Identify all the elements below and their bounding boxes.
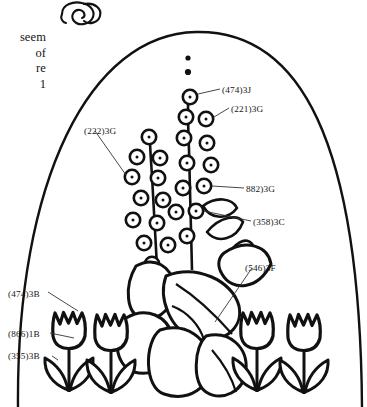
- bud-222-3G-top: [142, 130, 156, 144]
- bud-r-7: [180, 229, 194, 243]
- callout-222-3G: (222)3G: [84, 126, 116, 136]
- bud-r-4: [204, 158, 218, 172]
- leader-474-3B: [48, 292, 78, 311]
- pattern-page: seem of re 1 (474)3J (221)3G (222)3G 882…: [0, 0, 367, 407]
- flower-spike-right: [169, 55, 218, 270]
- bud-474-3J: [183, 90, 197, 104]
- bud-l-6: [126, 213, 140, 227]
- tulip-4: [280, 315, 328, 395]
- bud-r-5: [176, 181, 190, 195]
- callout-355-3B: (355)3B: [8, 351, 40, 361]
- callout-474-3B: (474)3B: [8, 289, 40, 299]
- bud-l-2: [153, 151, 167, 165]
- bud-dot-top-2: [185, 69, 191, 75]
- callout-866-1B: (866)1B: [8, 329, 40, 339]
- bud-r-1: [177, 131, 191, 145]
- bud-l-4: [134, 191, 148, 205]
- swirl-ornament: [61, 2, 100, 24]
- callout-882-3G: 882)3G: [246, 184, 275, 194]
- margin-note-text: seem of re 1: [0, 30, 46, 92]
- callout-546-3F: (546)3F: [245, 263, 276, 273]
- bud-r-3: [180, 156, 194, 170]
- bud-l-5: [156, 193, 170, 207]
- bud-l-8: [137, 236, 151, 250]
- bud-dot-top: [185, 55, 190, 60]
- leader-355-3B: [52, 356, 58, 360]
- callout-474-3J: (474)3J: [222, 85, 251, 95]
- bud-r-2: [200, 136, 214, 150]
- bud-222-3G: [125, 170, 139, 184]
- leader-474-3J: [198, 89, 220, 94]
- bud-l-3: [151, 171, 165, 185]
- bud-l-7: [150, 216, 164, 230]
- leader-222-3G: [95, 131, 126, 175]
- tulip-1: [45, 313, 93, 393]
- leader-882-3G: [212, 186, 244, 188]
- bud-221-3G-a: [179, 110, 193, 124]
- pattern-illustration: [0, 0, 367, 407]
- bud-l-1: [130, 150, 144, 164]
- bud-221-3G-b: [199, 112, 213, 126]
- bud-l-9: [161, 238, 175, 252]
- bud-882-3G: [197, 179, 211, 193]
- bud-358-3C: [189, 204, 203, 218]
- callout-221-3G: (221)3G: [231, 104, 263, 114]
- leader-221-3G: [214, 108, 229, 117]
- callout-358-3C: (358)3C: [253, 217, 285, 227]
- bud-r-6: [169, 205, 183, 219]
